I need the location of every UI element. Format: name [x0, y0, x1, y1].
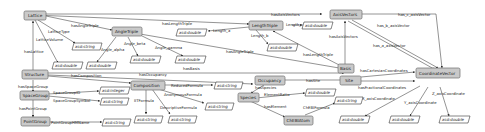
- literal-label: xsd:string: [216, 83, 237, 88]
- literal-length-c-double[interactable]: xsd:double: [302, 22, 333, 29]
- edge-label-has-fractional-coordinates: hasFractionalCoordinates: [358, 85, 406, 90]
- class-node-site[interactable]: Site: [340, 76, 361, 85]
- literal-label: xsd:string: [207, 104, 228, 109]
- literal-label: xsd:string: [136, 117, 157, 122]
- literal-label: xsd:string: [102, 99, 123, 104]
- edge-label-x-axis-coordinate: X_axisCoordinate: [362, 96, 396, 101]
- edge-label-has-cartesian-coordinates: hasCartesianCoordinates: [360, 68, 408, 73]
- literal-label: xsd:string: [104, 120, 125, 125]
- class-node-structure[interactable]: Structure: [22, 70, 48, 79]
- edge-label-angle-gamma: Angle_gamma: [155, 45, 182, 50]
- class-label-composition: Composition: [134, 83, 160, 88]
- edge-label-has-point-group: hasPointGroup: [19, 106, 47, 111]
- literal-chebi-formula-string[interactable]: xsd:string: [334, 97, 363, 104]
- class-label-chebi-atom: ChEBIAtom: [287, 118, 310, 123]
- class-node-space-group[interactable]: SpaceGroup: [20, 91, 49, 100]
- edge-label-has-a-axis-vector: has_a_axisVector: [373, 43, 406, 48]
- edge-label-has-c-axis-vector: has_c_axisVector: [398, 12, 431, 17]
- class-label-axis-vectors: AxisVectors: [333, 12, 357, 17]
- edge-label-has-occupancy: hasOccupancy: [139, 72, 168, 77]
- class-label-site: Site: [345, 78, 353, 83]
- literal-reduced-formula-string[interactable]: xsd:string: [214, 82, 243, 89]
- literal-label: xsd:string: [74, 44, 95, 49]
- literal-label: xsd:integer: [101, 88, 125, 93]
- literal-descriptive-formula-string[interactable]: xsd:string: [168, 116, 197, 123]
- edge-label-anonymous-formula: AnonymousFormula: [164, 92, 202, 97]
- literal-z-axis-coordinate-double[interactable]: xsd:double: [439, 116, 470, 123]
- edge-label-has-lattice: hasLattice: [24, 49, 44, 54]
- edge-label-has-site: hasSite: [306, 78, 321, 83]
- class-label-structure: Structure: [25, 72, 45, 77]
- class-label-coordinate-vector: CoordinateVector: [419, 71, 456, 76]
- class-node-chebi-atom[interactable]: ChEBIAtom: [284, 116, 313, 125]
- edge-label-lattice-type: LatticeType: [48, 29, 70, 34]
- literal-anonymous-formula-string[interactable]: xsd:string: [205, 103, 234, 110]
- literal-label: xsd:double: [177, 57, 201, 62]
- edge-label-lattice-volume: LatticeVolume: [36, 37, 64, 42]
- literal-label: xsd:double: [304, 23, 328, 28]
- edge-label-space-group-id: SpaceGroupID: [53, 90, 80, 95]
- literal-angle-beta-double[interactable]: xsd:double: [130, 56, 161, 63]
- edge-label-descriptive-formula: DescriptiveFormula: [160, 105, 197, 110]
- literal-label: xsd:double: [341, 117, 365, 122]
- edge-label-has-element: hasElement: [264, 104, 287, 109]
- literal-length-a-double[interactable]: xsd:double: [176, 29, 207, 36]
- literal-label: xsd:double: [391, 117, 415, 122]
- class-node-point-group[interactable]: PointGroup: [21, 117, 50, 126]
- class-node-species[interactable]: Species: [238, 93, 259, 102]
- literal-label: xsd:double: [178, 30, 202, 35]
- edge-label-chebi-formula: ChEBIFormula: [303, 105, 330, 110]
- edge-label-has-species: hasSpecies: [255, 85, 276, 90]
- class-node-axis-vectors[interactable]: AxisVectors: [330, 10, 362, 19]
- literal-space-group-id-integer[interactable]: xsd:integer: [99, 87, 130, 94]
- edge-labels-layer: hasAngleTriple LatticeType LatticeVolume…: [18, 12, 466, 125]
- literal-label: xsd:double: [132, 57, 156, 62]
- edge-label-has-axis-vectors-1: hasAxisVectors: [271, 12, 300, 17]
- class-node-angle-triple[interactable]: AngleTriple: [112, 27, 142, 36]
- literal-lattice-type-string[interactable]: xsd:string: [72, 43, 102, 50]
- literal-label: xsd:string: [170, 117, 191, 122]
- edge-label-y-axis-coordinate: Y_axisCoordinate: [404, 100, 437, 105]
- class-node-composition[interactable]: Composition: [131, 81, 165, 90]
- class-label-lattice: Lattice: [28, 13, 43, 18]
- literal-label: xsd:double: [54, 63, 78, 68]
- class-label-length-triple: LengthTriple: [252, 23, 278, 28]
- edge-label-has-angle-triple-1: hasAngleTriple: [71, 23, 99, 28]
- edge-label-length-b: Length_b: [251, 33, 269, 38]
- literal-label: xsd:double: [441, 117, 465, 122]
- edge-label-has-composition: hasComposition: [71, 73, 102, 78]
- class-node-coordinate-vector[interactable]: CoordinateVector: [416, 68, 460, 78]
- class-node-basis[interactable]: Basis: [338, 64, 354, 73]
- class-label-angle-triple: AngleTriple: [115, 29, 139, 34]
- literal-angle-alpha-double[interactable]: xsd:double: [86, 62, 117, 69]
- edge-label-has-length-triple-2: hasLengthTriple: [303, 52, 334, 57]
- edge-label-z-axis-coordinate: Z_axisCoordinate: [432, 91, 466, 96]
- literal-label: xsd:double: [307, 90, 331, 95]
- class-label-species: Species: [240, 95, 256, 100]
- edge-label-has-angle-triple-2: hasAngleTriple: [226, 49, 254, 54]
- literal-length-b-double[interactable]: xsd:double: [267, 44, 298, 51]
- literal-element-ratio-double[interactable]: xsd:double: [305, 89, 336, 96]
- class-node-occupancy[interactable]: Occupancy: [255, 76, 285, 85]
- edge-label-has-space-group: hasSpaceGroup: [18, 84, 48, 89]
- edge-label-has-b-axis-vector: has_b_axisVector: [377, 23, 410, 28]
- edge-label-space-group-symbol: SpaceGroupSymbol: [53, 98, 90, 103]
- edge-label-angle-alpha: Angle_alpha: [101, 47, 124, 52]
- class-label-space-group: SpaceGroup: [23, 93, 49, 98]
- edge-label-length-a: Length_a: [213, 28, 230, 33]
- literal-y-axis-coordinate-double[interactable]: xsd:double: [389, 116, 420, 123]
- literal-iit-formula-string[interactable]: xsd:string: [134, 116, 163, 123]
- edge-label-length-c: Length_c: [286, 22, 303, 27]
- class-node-lattice[interactable]: Lattice: [24, 11, 46, 20]
- literal-x-axis-coordinate-double[interactable]: xsd:double: [339, 116, 370, 123]
- edge-label-reduced-formula: ReducedFormula: [171, 83, 203, 88]
- class-node-length-triple[interactable]: LengthTriple: [249, 21, 283, 30]
- class-label-basis: Basis: [340, 66, 351, 71]
- literal-angle-gamma-double[interactable]: xsd:double: [175, 56, 206, 63]
- literal-lattice-volume-double[interactable]: xsd:double: [52, 62, 83, 69]
- literal-space-group-symbol-string[interactable]: xsd:string: [100, 98, 129, 105]
- literal-point-group-string[interactable]: xsd:string: [102, 119, 131, 126]
- literal-label: xsd:double: [269, 45, 293, 50]
- edge-label-has-basis: hasBasis: [183, 66, 200, 71]
- edge-label-angle-beta: Angle_beta: [124, 41, 145, 46]
